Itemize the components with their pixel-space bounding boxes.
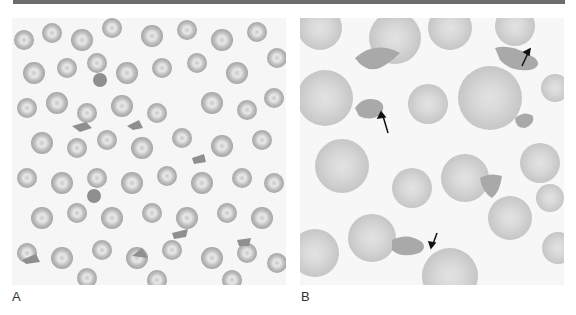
blood-smear-image-a [12, 18, 286, 285]
micrograph-panel-b [300, 18, 564, 285]
panel-label-b: B [301, 289, 310, 304]
header-bar [13, 0, 565, 4]
micrograph-panel-a [12, 18, 286, 285]
panel-label-a: A [12, 289, 21, 304]
blood-smear-image-b [300, 18, 564, 285]
